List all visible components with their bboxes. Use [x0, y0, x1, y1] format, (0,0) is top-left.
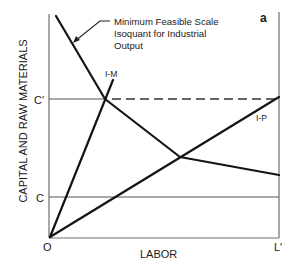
im-ray: [50, 80, 113, 237]
arrow-head-icon: [73, 36, 80, 43]
annotation-line-3: Output: [114, 40, 143, 51]
annotation-line-2: Isoquant for Industrial: [114, 28, 206, 39]
ip-ray: [50, 97, 279, 237]
ip-label: I-P: [256, 113, 267, 123]
isoquant-curve: [56, 16, 279, 175]
im-label: I-M: [105, 69, 117, 79]
panel-label: a: [260, 11, 267, 25]
c-tick-label: C: [36, 192, 44, 204]
y-axis-label: CAPITAL AND RAW MATERIALS: [17, 39, 29, 202]
x-axis-label: LABOR: [140, 248, 177, 260]
isoquant-diagram: Minimum Feasible Scale Isoquant for Indu…: [0, 0, 298, 276]
annotation-leader-line: [75, 21, 110, 41]
c-prime-tick-label: C′: [34, 94, 44, 106]
x-max-label: L′: [274, 241, 282, 253]
annotation-line-1: Minimum Feasible Scale: [114, 16, 219, 27]
origin-label: O: [43, 241, 52, 253]
